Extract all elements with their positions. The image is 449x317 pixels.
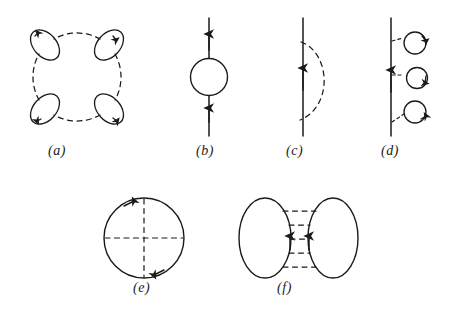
panel-label-b: (b) [196,143,214,159]
panel-label-e: (e) [133,280,150,296]
panel-e-closed-loop-with-crossed-dashed-diameters [104,198,184,278]
panel-label-a: (a) [48,143,66,159]
panel-label-f: (f) [277,280,292,296]
panel-label-c: (c) [286,143,303,159]
panel-label-d: (d) [381,143,399,159]
